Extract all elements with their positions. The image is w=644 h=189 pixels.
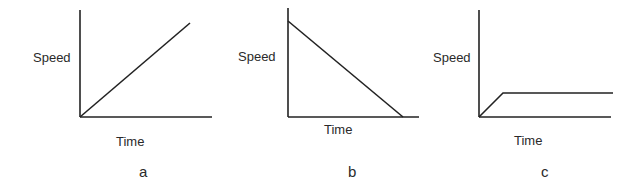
graph-c-speed-line: [479, 93, 613, 117]
graph-b: [288, 8, 419, 117]
graph-b-caption: b: [348, 163, 356, 180]
graph-b-speed-line: [288, 21, 403, 117]
graph-a-xlabel: Time: [116, 134, 144, 149]
graph-c: [479, 10, 613, 117]
graph-a-caption: a: [139, 163, 147, 180]
graph-c-xlabel: Time: [514, 133, 542, 148]
graph-a-speed-line: [80, 23, 190, 117]
graph-b-ylabel: Speed: [238, 49, 276, 64]
graph-b-xlabel: Time: [324, 122, 352, 137]
graph-a: [80, 10, 212, 117]
graph-c-ylabel: Speed: [433, 50, 471, 65]
graph-c-caption: c: [541, 163, 549, 180]
speed-time-graphs: [0, 0, 644, 189]
graph-a-ylabel: Speed: [33, 50, 71, 65]
